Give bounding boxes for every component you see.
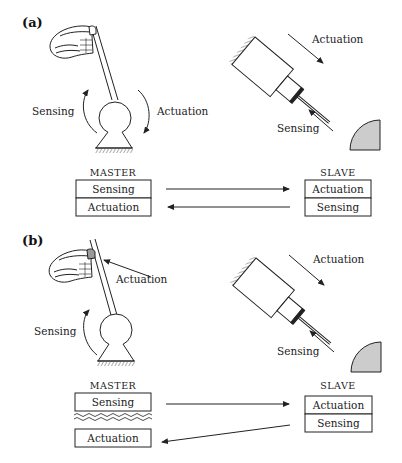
master-caption: MASTER: [90, 380, 137, 391]
tissue: [350, 120, 380, 150]
master-rod: [91, 27, 112, 100]
panel-a: (a) Sensing: [22, 15, 380, 216]
slave-box-sensing: Sensing: [317, 417, 360, 429]
master-sensing-label: Sensing: [34, 325, 77, 337]
slave-actuation-label: Actuation: [311, 33, 364, 45]
master-joint: [99, 102, 131, 134]
hand-icon: [49, 249, 95, 282]
slave-needle: [298, 318, 329, 344]
sensing-arrow: [83, 90, 97, 133]
slave-box-actuation: Actuation: [311, 183, 364, 195]
slave-caption: SLAVE: [320, 380, 356, 391]
master-device: [49, 239, 151, 366]
master-actuation-label: Actuation: [115, 273, 168, 285]
panel-b: (b) Sensing Actuation: [22, 233, 381, 447]
signal-arrow-slave-to-master: [162, 425, 290, 442]
teleoperation-diagram: (a) Sensing: [0, 0, 402, 463]
master-rod-edge: [95, 239, 117, 315]
master-box-sensing: Sensing: [92, 183, 135, 195]
actuation-arrow: [138, 90, 149, 133]
master-joint: [100, 314, 132, 346]
master-base: [96, 132, 132, 148]
ground-hatch: [97, 362, 135, 366]
master-box-sensing: Sensing: [92, 396, 135, 408]
master-actuation-label: Actuation: [156, 105, 209, 117]
slave-box-sensing: Sensing: [317, 201, 360, 213]
panel-label: (a): [22, 15, 43, 30]
disconnect-wave: [74, 414, 152, 421]
tissue: [351, 342, 381, 372]
slave-actuation-label: Actuation: [312, 253, 365, 265]
slave-needle: [297, 97, 328, 123]
master-rod-edge: [96, 26, 118, 100]
panel-label: (b): [22, 233, 43, 248]
fingertip-actuator: [87, 249, 95, 259]
sensing-arrow: [84, 310, 97, 355]
master-sensing-label: Sensing: [32, 105, 75, 117]
ground-hatch: [95, 149, 133, 153]
slave-caption: SLAVE: [320, 167, 356, 178]
master-box-actuation: Actuation: [87, 201, 140, 213]
slave-box-actuation: Actuation: [312, 399, 365, 411]
slave-sensing-label: Sensing: [277, 122, 320, 134]
hand-icon: [50, 26, 96, 58]
master-caption: MASTER: [90, 167, 137, 178]
slave-sensing-label: Sensing: [277, 345, 320, 357]
master-base: [98, 344, 134, 361]
master-box-actuation: Actuation: [86, 432, 139, 444]
master-device: [50, 26, 149, 153]
